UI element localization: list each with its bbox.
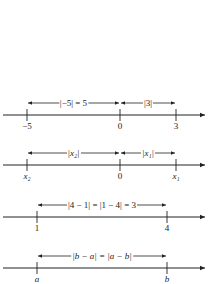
tick-label: 0 (118, 171, 123, 181)
tick-label: a (35, 274, 40, 284)
distance-label: |b − a| = |a − b| (71, 251, 133, 261)
tick-label: b (165, 274, 170, 284)
tick-label: 0 (118, 121, 123, 131)
tick-label: x₁ (172, 171, 179, 181)
distance-label: |−5| = 5 (59, 98, 88, 108)
tick-label: 3 (174, 121, 179, 131)
tick-label: −5 (22, 121, 32, 131)
distance-label: |3| (143, 98, 153, 108)
tick-label: 4 (165, 223, 170, 233)
tick-label: 1 (35, 223, 40, 233)
distance-label: |x₁| (141, 148, 155, 158)
distance-label: |4 − 1| = |1 − 4| = 3 (67, 200, 137, 210)
distance-label: |x₂| (66, 148, 80, 158)
tick-label: x₂ (23, 171, 30, 181)
